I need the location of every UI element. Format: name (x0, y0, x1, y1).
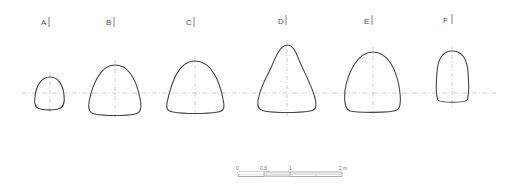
section-label-a: A (41, 17, 49, 27)
svg-text:D: D (278, 17, 284, 26)
svg-text:0: 0 (236, 165, 239, 171)
profile-e (345, 52, 401, 112)
svg-text:B: B (106, 18, 111, 27)
section-label-e: E (364, 15, 372, 26)
section-label-f: F (443, 14, 452, 25)
svg-text:E: E (364, 17, 369, 26)
profile-f (436, 51, 468, 102)
profile-a (35, 77, 65, 110)
profiles-figure: A B C D E F 0 0,5 (0, 0, 520, 188)
section-label-d: D (278, 15, 286, 26)
section-label-c: C (186, 17, 194, 27)
svg-text:1: 1 (289, 165, 292, 171)
svg-text:A: A (41, 18, 47, 27)
svg-text:C: C (186, 18, 192, 27)
svg-text:F: F (443, 16, 448, 25)
section-label-b: B (106, 17, 114, 27)
vertical-axes (50, 40, 452, 120)
scale-bar: 0 0,5 1 2 m (236, 165, 347, 177)
svg-text:0,5: 0,5 (260, 165, 267, 171)
svg-text:2 m: 2 m (339, 165, 347, 171)
